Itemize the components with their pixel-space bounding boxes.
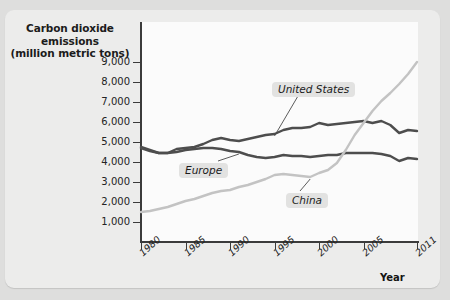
callout-china: China: [286, 193, 328, 208]
leader-china: [300, 179, 310, 191]
leader-europe: [218, 154, 239, 161]
callout-leader-lines: [0, 0, 450, 300]
leader-united-states: [275, 96, 299, 136]
chart-screenshot: Carbon dioxide emissions (million metric…: [0, 0, 450, 300]
callout-europe: Europe: [179, 163, 228, 178]
callout-united-states: United States: [272, 82, 355, 97]
